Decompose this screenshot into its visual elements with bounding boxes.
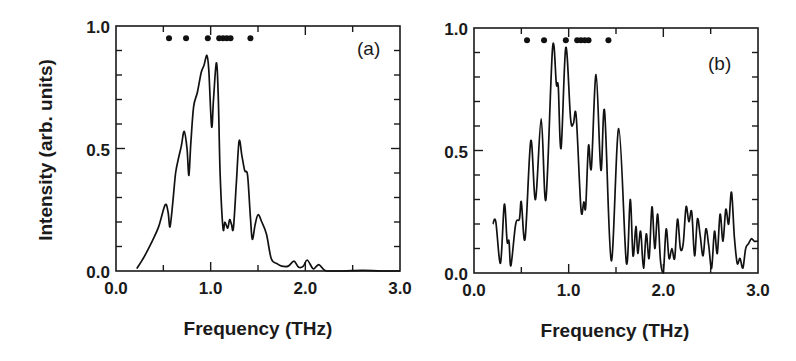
mode-marker-dot <box>605 37 611 43</box>
panel-label: (a) <box>357 38 380 59</box>
x-tick-labels: 0.01.02.03.0 <box>462 281 770 300</box>
chart-figure: Intensity (arb. units) 0.00.51.0 0.01.02… <box>0 0 796 361</box>
mode-marker-dot <box>247 35 253 41</box>
mode-markers <box>524 37 611 43</box>
x-tick-labels: 0.01.02.03.0 <box>104 279 412 298</box>
x-tick-label: 0.0 <box>104 279 128 298</box>
mode-marker-dot <box>586 37 592 43</box>
x-axis-title: Frequency (THz) <box>184 318 333 339</box>
mode-marker-dot <box>205 35 211 41</box>
panel-label: (b) <box>708 53 731 74</box>
mode-marker-dot <box>228 35 234 41</box>
mode-marker-dot <box>524 37 530 43</box>
plot-frame <box>116 26 400 271</box>
x-axis-title: Frequency (THz) <box>541 320 690 341</box>
x-tick-label: 0.0 <box>462 281 486 300</box>
x-tick-label: 2.0 <box>652 281 676 300</box>
x-tick-label: 1.0 <box>199 279 223 298</box>
x-tick-label: 2.0 <box>294 279 318 298</box>
y-tick-labels: 0.00.51.0 <box>86 18 110 282</box>
mode-marker-dot <box>541 37 547 43</box>
y-axis-title: Intensity (arb. units) <box>35 59 56 241</box>
y-tick-labels: 0.00.51.0 <box>444 20 468 284</box>
mode-marker-dot <box>183 35 189 41</box>
y-tick-label: 1.0 <box>86 18 110 37</box>
axis-ticks <box>116 26 400 271</box>
mode-marker-dot <box>166 35 172 41</box>
spectrum-curve <box>493 43 758 273</box>
panel-a: Intensity (arb. units) 0.00.51.0 0.01.02… <box>35 18 412 339</box>
y-tick-label: 1.0 <box>444 20 468 39</box>
x-tick-label: 1.0 <box>557 281 581 300</box>
mode-marker-dot <box>563 37 569 43</box>
x-tick-label: 3.0 <box>746 281 770 300</box>
spectrum-curve <box>137 55 400 271</box>
panel-b: 0.00.51.0 0.01.02.03.0 (b) Frequency (TH… <box>444 20 769 341</box>
y-tick-label: 0.5 <box>86 141 110 160</box>
mode-markers <box>166 35 253 41</box>
x-tick-label: 3.0 <box>388 279 412 298</box>
y-tick-label: 0.5 <box>444 143 468 162</box>
